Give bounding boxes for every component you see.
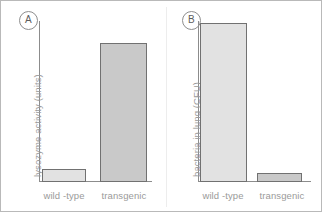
panel-a-letter: A bbox=[19, 11, 38, 30]
panel-a-bar-transgenic bbox=[100, 43, 147, 182]
panel-b: B bacteria in lung (CFU) wild -type tran… bbox=[166, 1, 322, 212]
figure-container: A lysozyme activity (units) wild -type t… bbox=[0, 0, 322, 212]
panel-a-bar-wild-type bbox=[42, 169, 86, 182]
panel-a-x-label-transgenic: transgenic bbox=[94, 190, 154, 201]
panel-b-x-label-transgenic: transgenic bbox=[252, 190, 312, 201]
panel-a-y-axis-label: lysozyme activity (units) bbox=[32, 74, 43, 177]
panel-b-bar-wild-type bbox=[200, 23, 247, 182]
panel-b-bar-transgenic bbox=[257, 173, 302, 182]
panel-a-x-label-wild-type: wild -type bbox=[34, 190, 94, 201]
panel-a: A lysozyme activity (units) wild -type t… bbox=[1, 1, 166, 212]
panel-b-x-label-wild-type: wild -type bbox=[193, 190, 253, 201]
